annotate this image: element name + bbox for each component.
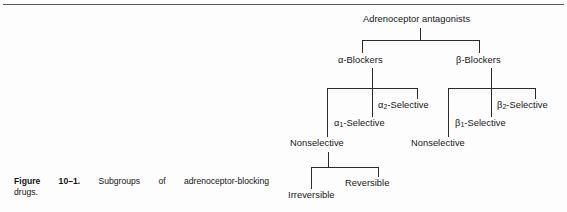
figure-number-label: Figure 10–1. [14, 176, 80, 186]
connector-to-alpha-blockers [362, 40, 363, 53]
connector-to-irreversible [311, 167, 312, 189]
node-beta-blockers: β-Blockers [456, 55, 501, 66]
connector-to-alpha2-selective [417, 88, 418, 99]
beta2-selective-suffix: -Selective [506, 100, 547, 110]
node-alpha-blockers: α-Blockers [338, 55, 383, 66]
connector-to-beta1-selective [491, 88, 492, 117]
connector-level1-bar [362, 40, 480, 41]
connector-nonselective-level3-bar [311, 167, 379, 168]
connector-to-beta-blockers [479, 40, 480, 53]
alpha2-selective-suffix: -Selective [387, 100, 428, 110]
alpha1-selective-suffix: -Selective [343, 118, 384, 128]
connector-alpha-blockers-stem [372, 68, 373, 88]
figure-page: Adrenoceptor antagonists α-Blockers β-Bl… [0, 0, 567, 212]
connector-to-alpha1-selective [372, 88, 373, 117]
connector-beta-blockers-stem [491, 68, 492, 88]
node-reversible: Reversible [345, 178, 389, 189]
node-alpha1-selective: α1-Selective [334, 118, 385, 129]
node-irreversible: Irreversible [288, 190, 335, 201]
node-alpha-nonselective: Nonselective [290, 138, 344, 149]
connector-to-alpha-nonselective [327, 88, 328, 137]
node-beta2-selective: β2-Selective [497, 100, 548, 111]
connector-to-reversible [378, 167, 379, 177]
connector-to-beta2-selective [535, 88, 536, 99]
beta1-selective-suffix: -Selective [464, 118, 505, 128]
caption-line-1: Figure 10–1. Subgroups of adrenoceptor-b… [14, 176, 269, 187]
node-alpha2-selective: α2-Selective [378, 100, 429, 111]
node-beta1-selective: β1-Selective [455, 118, 506, 129]
node-root-adrenoceptor-antagonists: Adrenoceptor antagonists [363, 14, 470, 25]
node-beta-nonselective: Nonselective [411, 138, 465, 149]
caption-line-2: drugs. [14, 187, 269, 198]
caption-line-1-text: Subgroups of adrenoceptor-blocking [99, 176, 270, 186]
figure-caption: Figure 10–1. Subgroups of adrenoceptor-b… [14, 176, 269, 198]
connector-to-beta-nonselective [448, 88, 449, 137]
connector-alpha-nonselective-stem [328, 152, 329, 167]
